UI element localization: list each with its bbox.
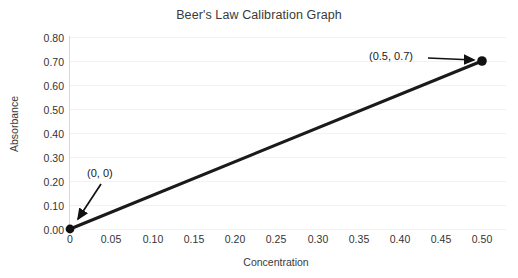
annotation-arrow-origin — [78, 184, 101, 219]
annotation-label-origin: (0, 0) — [87, 167, 113, 179]
chart-canvas: Beer's Law Calibration Graph 0.80 0.70 0… — [0, 0, 518, 278]
calibration-line — [70, 61, 482, 229]
data-point-origin — [66, 225, 75, 234]
data-point-high — [477, 56, 487, 66]
annotation-label-high: (0.5, 0.7) — [369, 50, 413, 62]
series-overlay — [0, 0, 518, 278]
annotation-arrow-high — [428, 58, 474, 60]
